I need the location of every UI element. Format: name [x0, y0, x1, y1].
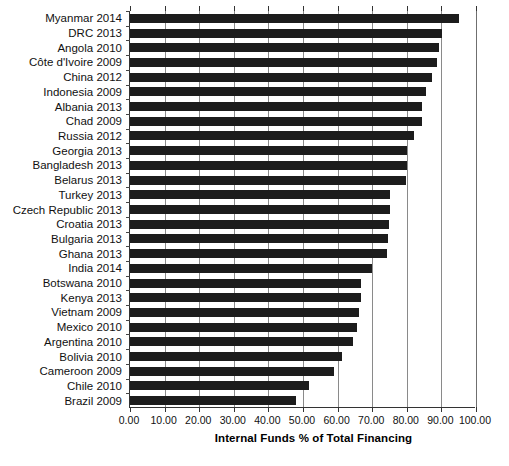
y-axis-category-label: Bolivia 2010: [59, 350, 122, 364]
x-axis-tick-mark: [130, 407, 131, 412]
x-axis-tick-label: 40.00: [254, 414, 280, 426]
y-axis-tick-mark: [126, 261, 130, 262]
x-axis-tick-label: 70.00: [358, 414, 384, 426]
bar: [130, 367, 334, 376]
y-axis-category-label: Chad 2009: [66, 114, 122, 128]
x-axis-tick-mark: [407, 407, 408, 412]
x-axis-tick-mark: [165, 6, 166, 11]
bar: [130, 102, 422, 111]
gridline: [476, 11, 477, 407]
x-axis-tick-label: 100.00: [459, 414, 491, 426]
y-axis-tick-mark: [126, 246, 130, 247]
x-axis-tick-mark: [338, 407, 339, 412]
y-axis-tick-mark: [126, 187, 130, 188]
y-axis-category-label: Kenya 2013: [61, 291, 122, 305]
bar: [130, 293, 361, 302]
x-axis-tick-label: 10.00: [150, 414, 176, 426]
bar: [130, 14, 459, 23]
bar: [130, 73, 432, 82]
y-axis-tick-mark: [126, 334, 130, 335]
y-axis-category-label: Myanmar 2014: [45, 11, 122, 25]
y-axis-category-label: Brazil 2009: [64, 394, 122, 408]
bar: [130, 131, 414, 140]
x-axis-tick-label: 80.00: [393, 414, 419, 426]
y-axis-category-labels: Myanmar 2014DRC 2013Angola 2010Côte d'Iv…: [0, 11, 126, 408]
y-axis-category-label: Georgia 2013: [52, 144, 122, 158]
y-axis-tick-mark: [126, 349, 130, 350]
y-axis-tick-mark: [126, 11, 130, 12]
bar: [130, 323, 357, 332]
y-axis-tick-mark: [126, 276, 130, 277]
x-axis-tick-mark: [199, 407, 200, 412]
y-axis-category-label: Botswana 2010: [43, 276, 122, 290]
y-axis-tick-mark: [126, 290, 130, 291]
x-axis-tick-mark: [130, 6, 131, 11]
y-axis-category-label: Indonesia 2009: [43, 85, 122, 99]
bar: [130, 381, 309, 390]
bar: [130, 161, 407, 170]
x-axis-tick-label: 50.00: [289, 414, 315, 426]
x-axis-tick-label: 20.00: [185, 414, 211, 426]
y-axis-tick-mark: [126, 305, 130, 306]
y-axis-tick-mark: [126, 114, 130, 115]
bar: [130, 264, 372, 273]
x-axis-tick-labels: 0.0010.0020.0030.0040.0050.0060.0070.008…: [0, 414, 509, 430]
x-axis-tick-label: 0.00: [119, 414, 139, 426]
y-axis-category-label: Angola 2010: [57, 41, 122, 55]
y-axis-category-label: Chile 2010: [67, 379, 122, 393]
y-axis-tick-mark: [126, 55, 130, 56]
y-axis-category-label: Croatia 2013: [56, 217, 122, 231]
bar: [130, 58, 437, 67]
plot-area: [129, 11, 475, 408]
x-axis-tick-mark: [441, 407, 442, 412]
bar: [130, 190, 390, 199]
y-axis-tick-mark: [126, 85, 130, 86]
x-axis-tick-label: 60.00: [323, 414, 349, 426]
y-axis-tick-mark: [126, 40, 130, 41]
bar: [130, 43, 439, 52]
x-axis-tick-mark: [234, 407, 235, 412]
bar: [130, 29, 442, 38]
y-axis-tick-mark: [126, 364, 130, 365]
y-axis-tick-mark: [126, 320, 130, 321]
bar: [130, 396, 296, 405]
y-axis-category-label: Bangladesh 2013: [32, 158, 122, 172]
y-axis-category-label: India 2014: [68, 261, 122, 275]
bar: [130, 308, 359, 317]
bar: [130, 117, 422, 126]
x-axis-tick-label: 30.00: [220, 414, 246, 426]
x-axis-title-text: Internal Funds % of Total Financing: [97, 432, 413, 444]
bar: [130, 352, 342, 361]
y-axis-category-label: Czech Republic 2013: [13, 203, 122, 217]
x-axis-tick-mark: [338, 6, 339, 11]
x-axis-tick-mark: [165, 407, 166, 412]
y-axis-tick-mark: [126, 143, 130, 144]
y-axis-category-label: Turkey 2013: [59, 188, 123, 202]
x-axis-tick-mark: [303, 6, 304, 11]
x-axis-tick-mark: [441, 6, 442, 11]
x-axis-tick-label: 90.00: [427, 414, 453, 426]
y-axis-category-label: Russia 2012: [58, 129, 122, 143]
y-axis-tick-mark: [126, 99, 130, 100]
y-axis-tick-mark: [126, 379, 130, 380]
x-axis-tick-mark: [476, 407, 477, 412]
bar: [130, 146, 407, 155]
chart-plot-wrapper: Myanmar 2014DRC 2013Angola 2010Côte d'Iv…: [0, 0, 509, 466]
bar: [130, 249, 387, 258]
y-axis-tick-mark: [126, 129, 130, 130]
x-axis-tick-mark: [268, 407, 269, 412]
y-axis-category-label: Argentina 2010: [44, 335, 122, 349]
y-axis-tick-mark: [126, 217, 130, 218]
bar: [130, 205, 390, 214]
bar: [130, 337, 353, 346]
y-axis-tick-mark: [126, 202, 130, 203]
x-axis-tick-mark: [407, 6, 408, 11]
x-axis-tick-mark: [234, 6, 235, 11]
x-axis-tick-mark: [476, 6, 477, 11]
y-axis-category-label: Bulgaria 2013: [51, 232, 122, 246]
y-axis-tick-mark: [126, 70, 130, 71]
gridline: [407, 11, 408, 407]
bar-chart: Myanmar 2014DRC 2013Angola 2010Côte d'Iv…: [0, 0, 509, 466]
bar: [130, 87, 426, 96]
y-axis-tick-mark: [126, 26, 130, 27]
